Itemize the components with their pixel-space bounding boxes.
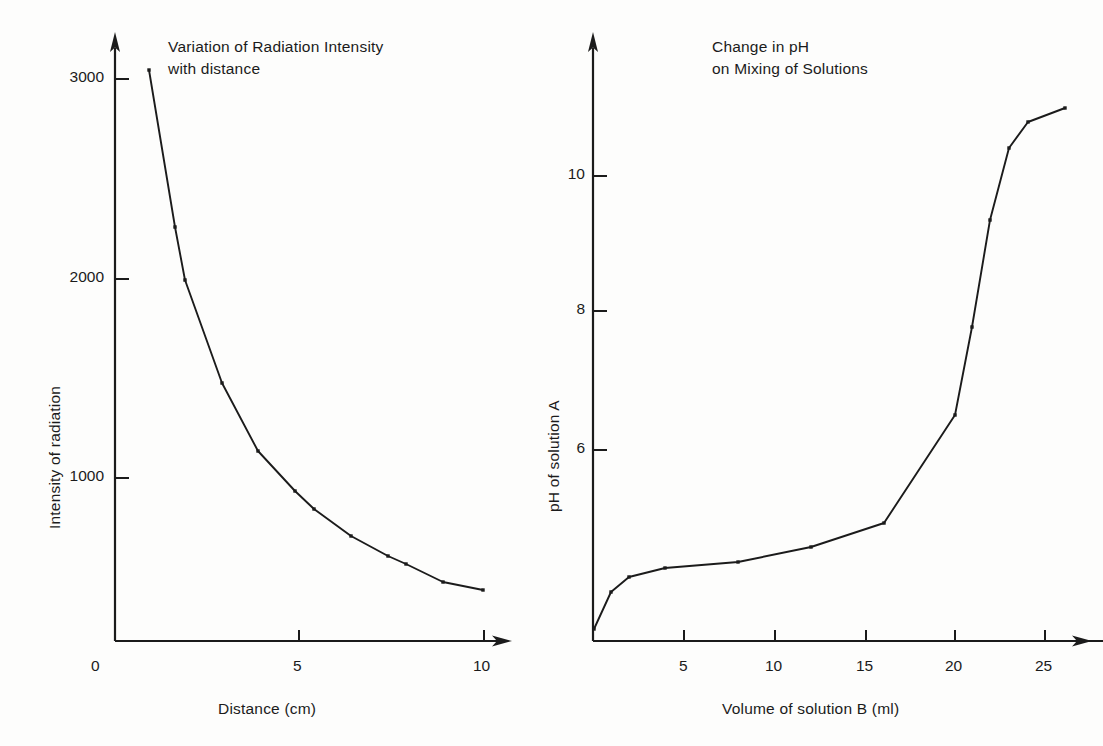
chart-radiation-intensity: Variation of Radiation Intensity with di… [0,0,552,746]
x-tick-label-0: 0 [91,657,100,675]
data-points-right [592,106,1066,630]
y-tick-label-3000: 3000 [42,68,104,86]
y-ticks-right [593,176,607,450]
x-tick-label-5: 5 [293,657,302,675]
x-tick-label-25: 25 [1035,657,1052,675]
figure-page: Variation of Radiation Intensity with di… [0,0,1103,746]
x-tick-label-5: 5 [679,657,688,675]
plot-area-right [551,0,1103,746]
y-ticks-left [115,79,129,478]
plot-area-left [0,0,552,746]
data-points-left [147,68,484,591]
data-series-left [149,70,483,590]
x-tick-label-15: 15 [856,657,873,675]
y-axis-right [588,32,598,641]
y-axis-label-left: Intensity of radiation [46,386,64,529]
x-ticks-right [684,630,1045,641]
y-axis-left [110,32,120,641]
x-tick-label-10: 10 [473,657,490,675]
x-axis-label-left: Distance (cm) [218,700,316,718]
y-tick-label-10: 10 [539,165,585,183]
x-tick-label-10: 10 [765,657,782,675]
chart-ph-mixing: Change in pH on Mixing of Solutions [551,0,1103,746]
x-ticks-left [299,630,484,641]
x-tick-label-20: 20 [945,657,962,675]
data-series-right [594,108,1065,629]
x-axis-left [115,636,512,647]
y-tick-label-2000: 2000 [42,268,104,286]
y-axis-label-right: pH of solution A [545,400,563,512]
x-axis-right-visible [593,636,1092,647]
y-tick-label-8: 8 [539,300,585,318]
x-axis-label-right: Volume of solution B (ml) [722,700,899,718]
